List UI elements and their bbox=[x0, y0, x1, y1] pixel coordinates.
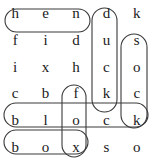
grid-cell[interactable]: c bbox=[91, 107, 121, 134]
grid-cell[interactable]: l bbox=[30, 107, 60, 134]
grid-cell[interactable]: o bbox=[30, 134, 60, 161]
grid-cell[interactable]: h bbox=[61, 54, 91, 81]
grid-cell[interactable]: s bbox=[91, 134, 121, 161]
grid-cell[interactable]: i bbox=[0, 54, 30, 81]
grid-cell[interactable]: x bbox=[61, 134, 91, 161]
grid-cell[interactable]: b bbox=[30, 81, 60, 108]
grid-cell[interactable]: c bbox=[122, 81, 152, 108]
grid-cell[interactable]: o bbox=[61, 107, 91, 134]
grid-cell[interactable]: s bbox=[122, 27, 152, 54]
grid-cell[interactable]: o bbox=[122, 54, 152, 81]
grid-cell[interactable]: k bbox=[122, 0, 152, 27]
grid-cell[interactable]: b bbox=[0, 107, 30, 134]
letter-grid: h e n d k f i d u s i x h c o c b f k c … bbox=[0, 0, 152, 161]
grid-cell[interactable]: o bbox=[122, 134, 152, 161]
grid-cell[interactable]: d bbox=[61, 27, 91, 54]
grid-cell[interactable]: k bbox=[122, 107, 152, 134]
grid-cell[interactable]: n bbox=[61, 0, 91, 27]
grid-cell[interactable]: c bbox=[0, 81, 30, 108]
grid-cell[interactable]: d bbox=[91, 0, 121, 27]
grid-cell[interactable]: f bbox=[0, 27, 30, 54]
grid-cell[interactable]: h bbox=[0, 0, 30, 27]
grid-cell[interactable]: f bbox=[61, 81, 91, 108]
grid-cell[interactable]: e bbox=[30, 0, 60, 27]
word-search-puzzle: h e n d k f i d u s i x h c o c b f k c … bbox=[0, 0, 152, 161]
grid-cell[interactable]: c bbox=[91, 54, 121, 81]
grid-cell[interactable]: b bbox=[0, 134, 30, 161]
grid-cell[interactable]: k bbox=[91, 81, 121, 108]
grid-cell[interactable]: u bbox=[91, 27, 121, 54]
grid-cell[interactable]: x bbox=[30, 54, 60, 81]
grid-cell[interactable]: i bbox=[30, 27, 60, 54]
